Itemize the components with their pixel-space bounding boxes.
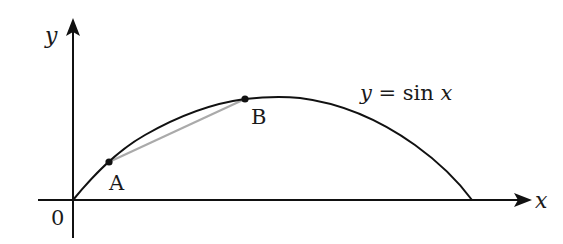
point-b-label: B bbox=[251, 105, 266, 129]
origin-label: 0 bbox=[51, 206, 64, 230]
sine-diagram: y x 0 A B y = sin x bbox=[0, 0, 563, 244]
chord-ab bbox=[109, 99, 245, 162]
point-a-label: A bbox=[108, 171, 125, 195]
equation-x: x bbox=[441, 81, 453, 105]
point-b-marker bbox=[241, 95, 248, 102]
equation-eq: = sin bbox=[372, 81, 441, 105]
y-axis bbox=[66, 18, 80, 238]
x-axis bbox=[38, 193, 532, 207]
x-axis-label: x bbox=[535, 188, 548, 213]
point-a-marker bbox=[105, 158, 112, 165]
sine-curve bbox=[73, 97, 472, 200]
curve-equation-label: y = sin x bbox=[359, 81, 453, 105]
y-axis-label: y bbox=[44, 23, 58, 48]
